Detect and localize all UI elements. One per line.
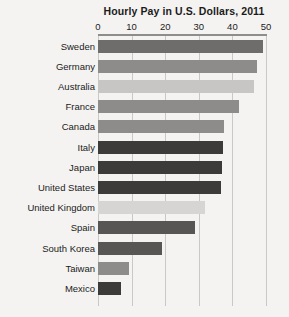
- bar-canada: [98, 120, 224, 133]
- bar-taiwan: [98, 262, 129, 275]
- bar-category-label: United Kingdom: [27, 202, 95, 213]
- bar-category-label: Canada: [62, 121, 95, 132]
- bar-south-korea: [98, 242, 162, 255]
- bar-category-label: Spain: [71, 222, 95, 233]
- bar-row: Mexico: [0, 280, 289, 300]
- bar-category-label: Italy: [78, 142, 95, 153]
- bar-row: France: [0, 98, 289, 118]
- bar-italy: [98, 141, 223, 154]
- bar-row: Germany: [0, 58, 289, 78]
- bar-category-label: Australia: [58, 81, 95, 92]
- bar-japan: [98, 161, 222, 174]
- bar-category-label: Sweden: [61, 41, 95, 52]
- x-tick-label-20: 20: [160, 21, 171, 32]
- hourly-pay-bar-chart: Hourly Pay in U.S. Dollars, 2011 0102030…: [0, 0, 289, 317]
- chart-title: Hourly Pay in U.S. Dollars, 2011: [96, 5, 272, 17]
- bar-sweden: [98, 40, 263, 53]
- bar-category-label: Mexico: [65, 283, 95, 294]
- x-tick-label-40: 40: [227, 21, 238, 32]
- bar-germany: [98, 60, 257, 73]
- bar-row: Canada: [0, 118, 289, 138]
- bar-row: Japan: [0, 159, 289, 179]
- bar-category-label: United States: [38, 182, 95, 193]
- bar-row: Australia: [0, 78, 289, 98]
- bar-row: United Kingdom: [0, 199, 289, 219]
- bar-category-label: Germany: [56, 61, 95, 72]
- bar-mexico: [98, 282, 121, 295]
- bar-row: Sweden: [0, 38, 289, 58]
- bar-united-kingdom: [98, 201, 205, 214]
- bar-united-states: [98, 181, 221, 194]
- x-tick-label-50: 50: [261, 21, 272, 32]
- bar-row: South Korea: [0, 240, 289, 260]
- bar-row: United States: [0, 179, 289, 199]
- bar-row: Spain: [0, 219, 289, 239]
- x-tick-label-10: 10: [126, 21, 137, 32]
- bar-spain: [98, 221, 195, 234]
- bar-france: [98, 100, 239, 113]
- bar-australia: [98, 80, 254, 93]
- bar-category-label: Taiwan: [65, 263, 95, 274]
- x-axis-tick-labels: 01020304050: [0, 21, 289, 34]
- bar-category-label: South Korea: [42, 243, 95, 254]
- bar-category-label: France: [65, 101, 95, 112]
- bar-category-label: Japan: [69, 162, 95, 173]
- bar-row: Taiwan: [0, 260, 289, 280]
- bar-row: Italy: [0, 139, 289, 159]
- x-tick-label-0: 0: [95, 21, 100, 32]
- x-tick-label-30: 30: [194, 21, 205, 32]
